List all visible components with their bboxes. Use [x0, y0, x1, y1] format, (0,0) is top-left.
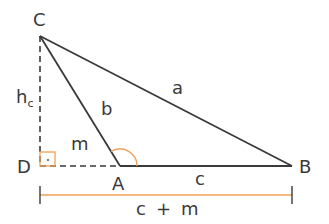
label-m: m — [71, 133, 89, 154]
triangle-diagram: C D A B a b c m hc c+m — [0, 0, 329, 224]
point-label-c: C — [33, 9, 46, 30]
right-angle-dot — [47, 159, 49, 161]
diagram-svg: C D A B a b c m hc c+m — [0, 0, 329, 224]
right-angle-marker — [40, 152, 55, 166]
measure-label: c+m — [136, 198, 199, 219]
label-b: b — [101, 98, 112, 119]
point-label-d: D — [17, 156, 31, 177]
label-a: a — [172, 77, 183, 98]
point-label-b: B — [299, 156, 311, 177]
label-c: c — [195, 168, 205, 189]
label-hc: hc — [16, 86, 33, 110]
point-label-a: A — [112, 173, 125, 194]
